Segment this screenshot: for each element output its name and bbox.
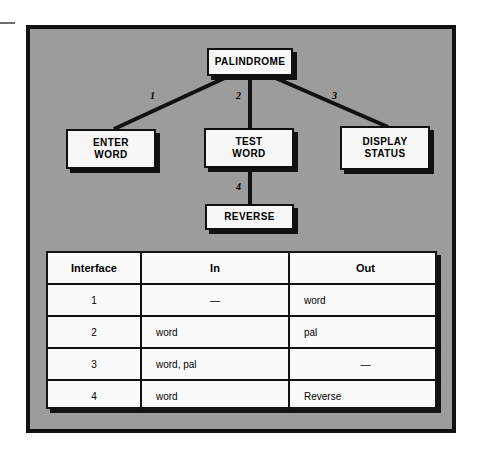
interface-table-head: Interface In Out	[48, 253, 441, 284]
cell-in: word	[141, 380, 289, 411]
cell-interface: 1	[48, 284, 141, 316]
structure-chart-diagram: PALINDROME ENTER WORD TEST WORD DISPLAY …	[30, 29, 452, 239]
cell-interface: 2	[48, 316, 141, 348]
node-enter-word: ENTER WORD	[66, 129, 156, 169]
edge-label-2: 2	[236, 90, 241, 101]
cell-out: pal	[289, 316, 441, 348]
node-display-status-line1: DISPLAY	[362, 136, 407, 149]
cell-in: word, pal	[141, 348, 289, 380]
table-row: 3 word, pal —	[48, 348, 441, 380]
cell-in: word	[141, 316, 289, 348]
node-palindrome: PALINDROME	[207, 48, 293, 76]
node-palindrome-label: PALINDROME	[215, 56, 285, 69]
edge-label-4: 4	[236, 181, 241, 192]
column-header-out: Out	[289, 253, 441, 284]
table-header-row: Interface In Out	[48, 253, 441, 284]
page-edge-rule	[0, 22, 15, 24]
cell-out: word	[289, 284, 441, 316]
node-display-status: DISPLAY STATUS	[340, 126, 430, 170]
cell-interface: 3	[48, 348, 141, 380]
cell-interface: 4	[48, 380, 141, 411]
node-test-word-line2: WORD	[232, 148, 265, 161]
node-test-word-line1: TEST	[232, 136, 265, 149]
table-row: 1 — word	[48, 284, 441, 316]
cell-out: Reverse	[289, 380, 441, 411]
cell-out: —	[289, 348, 441, 380]
interface-table: Interface In Out 1 — word 2 word pal 3	[46, 251, 437, 409]
edge-label-3: 3	[332, 90, 337, 101]
node-enter-word-line1: ENTER	[93, 137, 129, 150]
node-test-word: TEST WORD	[204, 128, 294, 168]
edge-label-1: 1	[150, 90, 155, 101]
column-header-interface: Interface	[48, 253, 141, 284]
node-enter-word-line2: WORD	[93, 149, 129, 162]
node-reverse-label: REVERSE	[224, 211, 275, 224]
cell-in: —	[141, 284, 289, 316]
column-header-in: In	[141, 253, 289, 284]
node-display-status-line2: STATUS	[362, 148, 407, 161]
interface-table-body: 1 — word 2 word pal 3 word, pal — 4 word	[48, 284, 441, 411]
figure-panel: PALINDROME ENTER WORD TEST WORD DISPLAY …	[26, 25, 456, 433]
interface-table-grid: Interface In Out 1 — word 2 word pal 3	[48, 253, 441, 411]
table-row: 2 word pal	[48, 316, 441, 348]
table-row: 4 word Reverse	[48, 380, 441, 411]
node-reverse: REVERSE	[205, 204, 294, 230]
